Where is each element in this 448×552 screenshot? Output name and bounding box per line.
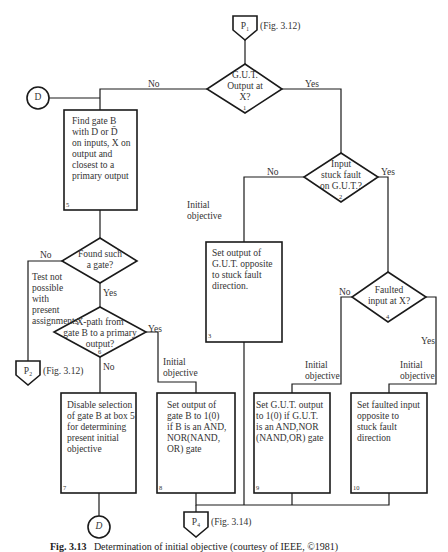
process-3-number: 3 xyxy=(208,332,211,339)
decision-1-number: 1 xyxy=(243,104,246,111)
edge-label-initial-objective-3: Initial objective xyxy=(187,200,222,222)
edge-label-d1-yes: Yes xyxy=(305,79,319,89)
process-8-text: Set output of gate B to 1(0) if B is an … xyxy=(167,400,234,455)
process-9-number: 9 xyxy=(256,484,259,491)
edge-label-d2-yes: Yes xyxy=(381,167,395,177)
connector-p2-ref: (Fig. 3.12) xyxy=(43,366,83,376)
decision-6-number: 6 xyxy=(98,348,101,355)
edge-d2-yes xyxy=(378,177,388,272)
edge-label-test-not-possible: Test not possible with present assignmen… xyxy=(32,272,78,327)
process-9-text: Set G.U.T. output to 1(0) if G.U.T. is a… xyxy=(256,400,330,444)
edge-label-d2-no: No xyxy=(267,167,279,177)
figure-caption-number: Fig. 3.13 xyxy=(50,541,86,552)
process-3-text: Set output of G.U.T. opposite to stuck f… xyxy=(212,248,280,292)
process-10-text: Set faulted input opposite to stuck faul… xyxy=(357,400,427,444)
edge-label-initial-objective-8: Initial objective xyxy=(163,357,198,379)
edge-label-d4-yes: Yes xyxy=(421,336,435,346)
edge-label-d4-no: No xyxy=(339,287,351,297)
figure-caption-text: Determination of initial objective (cour… xyxy=(94,541,338,552)
decision-1-text: G.U.T. Output at X? xyxy=(210,70,280,103)
process-10-number: 10 xyxy=(353,484,360,491)
process-7-number: 7 xyxy=(63,484,66,491)
decision-2-text: Input stuck fault on G.U.T.? xyxy=(304,159,378,192)
connector-d-bottom-label: D xyxy=(88,521,110,531)
edge-label-found-no: No xyxy=(40,250,52,260)
edge-label-d6-yes: Yes xyxy=(148,324,162,334)
decision-2-number: 2 xyxy=(339,193,342,200)
connector-p4-ref: (Fig. 3.14) xyxy=(211,517,251,527)
edge-d1-no xyxy=(100,89,207,110)
connector-p1-label: P₁ xyxy=(233,21,257,31)
connector-p4-label: P₄ xyxy=(184,517,208,527)
edge-label-d6-no: No xyxy=(103,362,115,372)
decision-4-number: 4 xyxy=(386,313,389,320)
connector-p1-ref: (Fig. 3.12) xyxy=(260,21,300,31)
connector-p2-label: P₂ xyxy=(16,366,40,376)
edge-label-d1-no: No xyxy=(148,79,160,89)
process-8-number: 8 xyxy=(159,484,162,491)
decision-found-text: Found such a gate? xyxy=(64,249,136,271)
edge-d1-yes xyxy=(282,89,341,153)
edge-label-initial-objective-10: Initial objective xyxy=(400,360,435,382)
process-5-number: 5 xyxy=(66,201,69,208)
process-7-text: Disable selection of gate B at box 5 for… xyxy=(67,400,135,455)
connector-d-top-label: D xyxy=(27,92,49,102)
edge-label-found-yes: Yes xyxy=(103,288,117,298)
edge-d2-no xyxy=(244,177,304,242)
process-5-text: Find gate B with D or D̄ on inputs, X on… xyxy=(72,116,136,182)
figure-caption: Fig. 3.13 Determination of initial objec… xyxy=(50,541,338,552)
decision-4-text: Faulted input at X? xyxy=(352,285,426,307)
edge-label-initial-objective-9: Initial objective xyxy=(305,360,340,382)
